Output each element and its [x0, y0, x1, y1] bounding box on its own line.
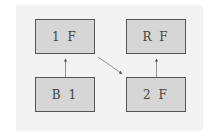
- arrows-layer: [0, 0, 214, 137]
- arrow-1f-to-2f: [98, 57, 121, 73]
